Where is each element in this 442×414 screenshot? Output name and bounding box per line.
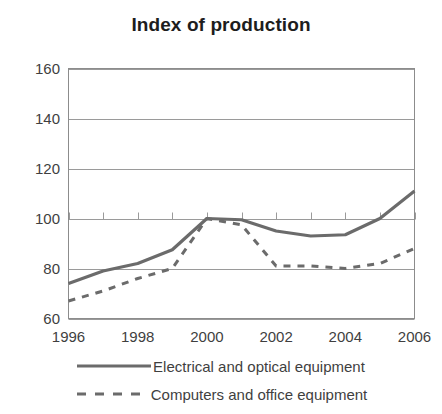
legend-item: Electrical and optical equipment — [0, 352, 442, 380]
chart-legend: Electrical and optical equipment Compute… — [0, 352, 442, 408]
x-tick-label: 2000 — [177, 328, 237, 345]
y-tick-label: 140 — [12, 110, 60, 127]
y-tick-label: 120 — [12, 160, 60, 177]
x-tick-label: 2006 — [385, 328, 442, 345]
x-tick-label: 2004 — [315, 328, 375, 345]
legend-swatch-dashed-line-icon — [75, 388, 149, 400]
legend-swatch-solid-line-icon — [77, 360, 151, 372]
y-tick-label: 60 — [12, 310, 60, 327]
plot-frame — [69, 69, 415, 319]
legend-label-electrical-and-optical-equipment: Electrical and optical equipment — [153, 358, 365, 375]
x-tick-label: 2002 — [246, 328, 306, 345]
chart-figure: Index of production 6080100120140160 199… — [0, 0, 442, 414]
legend-item: Computers and office equipment — [0, 380, 442, 408]
gridlines — [69, 70, 415, 320]
x-tick-label: 1996 — [39, 328, 99, 345]
y-tick-label: 160 — [12, 60, 60, 77]
y-tick-label: 100 — [12, 210, 60, 227]
x-tick-label: 1998 — [108, 328, 168, 345]
series-lines — [69, 191, 415, 301]
legend-label-computers-and-office-equipment: Computers and office equipment — [151, 386, 368, 403]
y-tick-label: 80 — [12, 260, 60, 277]
series-line — [69, 219, 415, 302]
